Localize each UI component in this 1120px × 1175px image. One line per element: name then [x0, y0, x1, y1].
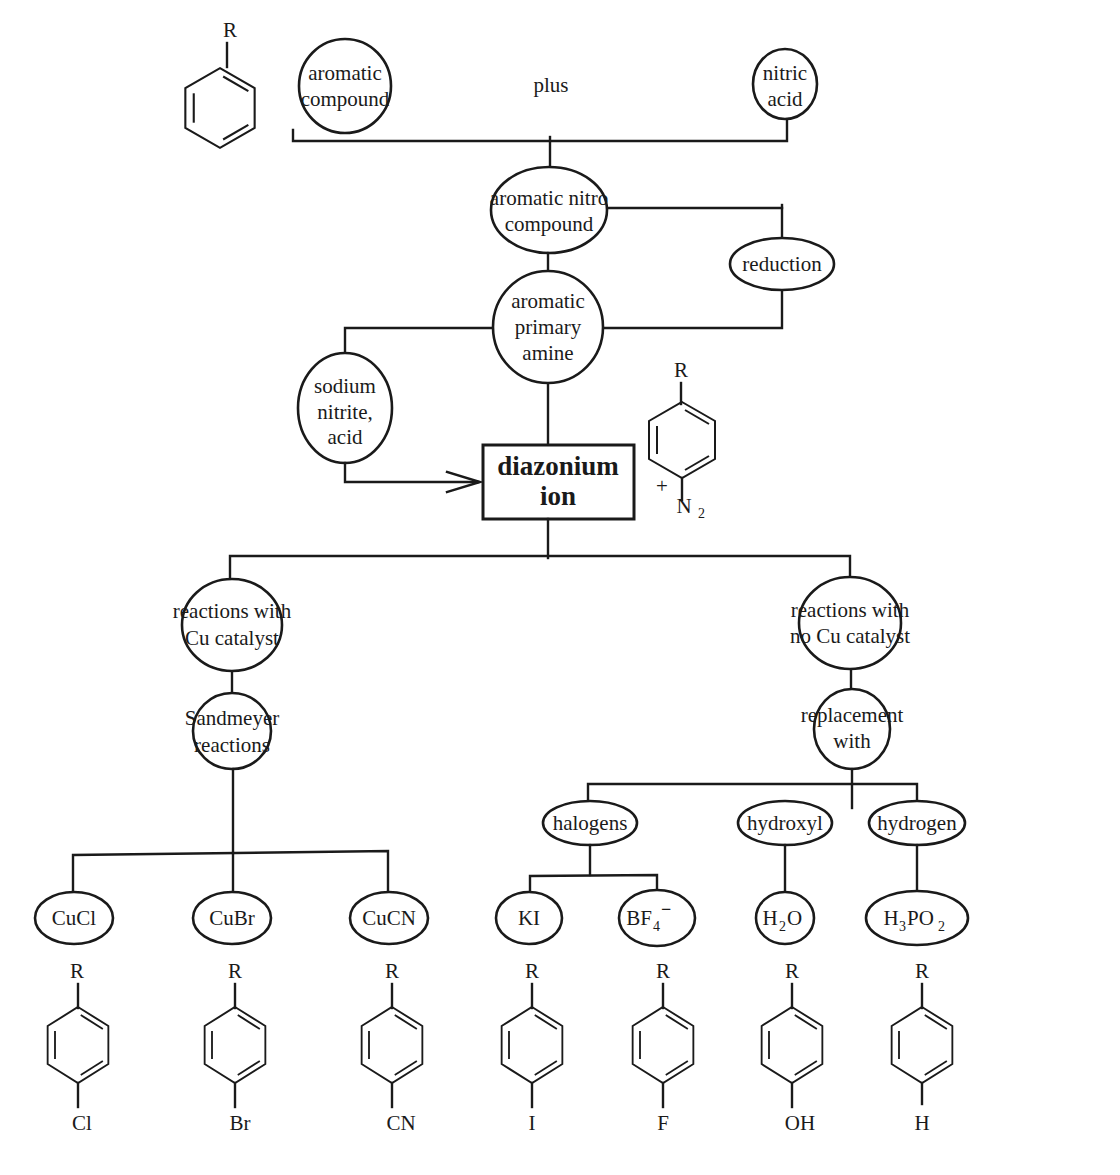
node-sandmeyer-reactions: Sandmeyer reactions: [185, 693, 279, 769]
svg-text:acid: acid: [328, 425, 363, 449]
svg-text:4: 4: [653, 919, 660, 934]
svg-text:reactions: reactions: [194, 733, 270, 757]
svg-text:R: R: [228, 959, 242, 983]
svg-text:2: 2: [698, 506, 705, 521]
connector-branch-split: [230, 556, 850, 578]
group-hydrogen: hydrogen: [869, 801, 965, 845]
svg-text:R: R: [656, 959, 670, 983]
svg-text:with: with: [833, 729, 871, 753]
node-reduction: reduction: [730, 238, 834, 290]
svg-text:H: H: [883, 906, 898, 930]
svg-text:I: I: [529, 1111, 536, 1135]
svg-text:hydroxyl: hydroxyl: [747, 811, 823, 835]
group-halogens: halogens: [543, 801, 637, 845]
product-rings: Cl Br CN I F OH H: [48, 984, 953, 1135]
node-aromatic-compound: aromatic compound: [299, 39, 391, 133]
svg-text:replacement: replacement: [801, 703, 904, 727]
node-nitric-acid: nitric acid: [753, 49, 817, 119]
svg-text:R: R: [674, 358, 688, 382]
reagent-cubr: CuBr: [193, 892, 271, 944]
reagent-ki: KI: [496, 892, 562, 944]
svg-text:−: −: [661, 899, 671, 919]
svg-text:R: R: [525, 959, 539, 983]
svg-text:Cl: Cl: [72, 1111, 92, 1135]
product-bromobenzene: R: [228, 959, 242, 983]
svg-text:aromatic: aromatic: [308, 61, 381, 85]
node-diazonium-ion: diazonium ion: [483, 445, 634, 519]
svg-text:amine: amine: [522, 341, 573, 365]
svg-text:O: O: [787, 906, 802, 930]
node-aromatic-primary-amine: aromatic primary amine: [493, 271, 603, 383]
svg-text:BF: BF: [626, 906, 652, 930]
node-aromatic-nitro-compound: aromatic nitro compound: [490, 167, 608, 253]
svg-text:compound: compound: [505, 212, 594, 236]
reagent-cucn: CuCN: [350, 892, 428, 944]
svg-text:KI: KI: [518, 906, 540, 930]
svg-text:acid: acid: [768, 87, 803, 111]
arrow-to-diazonium: [345, 463, 478, 482]
svg-text:CuBr: CuBr: [209, 906, 255, 930]
svg-text:R: R: [915, 959, 929, 983]
svg-text:no Cu catalyst: no Cu catalyst: [790, 624, 910, 648]
node-reactions-with-cu-catalyst: reactions with Cu catalyst: [173, 579, 292, 671]
svg-text:R: R: [785, 959, 799, 983]
group-hydroxyl: hydroxyl: [738, 801, 832, 845]
reagent-h2o: H 2 O: [756, 892, 814, 944]
reagent-bf4-minus: BF 4 −: [619, 890, 695, 946]
svg-text:F: F: [657, 1111, 669, 1135]
plus-label: plus: [533, 73, 568, 97]
svg-text:reduction: reduction: [742, 252, 822, 276]
svg-text:Sandmeyer: Sandmeyer: [185, 706, 279, 730]
svg-text:Br: Br: [230, 1111, 251, 1135]
product-phenol: R: [785, 959, 799, 983]
svg-text:primary: primary: [515, 315, 582, 339]
reagent-cucl: CuCl: [35, 892, 113, 944]
svg-text:OH: OH: [785, 1111, 815, 1135]
svg-text:reactions with: reactions with: [791, 598, 910, 622]
svg-text:nitrite,: nitrite,: [317, 400, 372, 424]
svg-text:reactions with: reactions with: [173, 599, 292, 623]
svg-text:R: R: [385, 959, 399, 983]
node-replacement-with: replacement with: [801, 689, 904, 769]
svg-text:aromatic: aromatic: [511, 289, 584, 313]
svg-text:R: R: [70, 959, 84, 983]
product-benzene: R: [915, 959, 929, 983]
svg-text:aromatic nitro: aromatic nitro: [490, 186, 608, 210]
product-benzonitrile: R: [385, 959, 399, 983]
svg-text:2: 2: [779, 919, 786, 934]
svg-text:CuCN: CuCN: [362, 906, 416, 930]
diazonium-structure: R + N 2: [649, 358, 715, 521]
reagent-h3po2: H 3 PO 2: [866, 891, 968, 945]
diazonium-flowchart: R aromatic compound plus nitric acid aro…: [0, 0, 1120, 1175]
product-chlorobenzene: R: [70, 959, 84, 983]
svg-text:PO: PO: [907, 906, 934, 930]
svg-text:Cu catalyst: Cu catalyst: [185, 626, 279, 650]
svg-text:CuCl: CuCl: [52, 906, 97, 930]
svg-text:hydrogen: hydrogen: [877, 811, 957, 835]
svg-text:ion: ion: [540, 481, 576, 511]
svg-text:sodium: sodium: [314, 374, 376, 398]
product-fluorobenzene: R: [656, 959, 670, 983]
svg-text:CN: CN: [386, 1111, 415, 1135]
substituent-r-label: R: [223, 18, 237, 42]
svg-text:2: 2: [938, 919, 945, 934]
svg-text:nitric: nitric: [763, 61, 807, 85]
svg-text:3: 3: [899, 919, 906, 934]
svg-text:diazonium: diazonium: [497, 451, 619, 481]
svg-text:H: H: [914, 1111, 929, 1135]
svg-text:compound: compound: [301, 87, 390, 111]
node-reactions-with-no-cu-catalyst: reactions with no Cu catalyst: [790, 577, 910, 669]
svg-text:+: +: [656, 474, 668, 498]
svg-text:H: H: [762, 906, 777, 930]
svg-text:N: N: [676, 494, 691, 518]
svg-text:halogens: halogens: [553, 811, 628, 835]
node-sodium-nitrite-acid: sodium nitrite, acid: [298, 353, 392, 463]
product-iodobenzene: R: [525, 959, 539, 983]
benzene-start-structure: R: [185, 18, 254, 148]
